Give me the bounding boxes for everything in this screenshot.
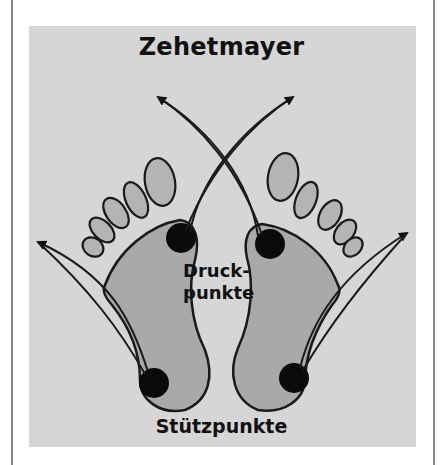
diagram-title: Zehetmayer (0, 33, 443, 61)
arrow-right-ball-to-top-left-2 (158, 97, 258, 236)
feet-diagram (0, 0, 443, 465)
pressure-points-label-line2: punkte (183, 282, 254, 304)
support-points-label: Stützpunkte (0, 415, 443, 437)
right-pressure-point (255, 229, 285, 259)
arrow-right-ball-to-top-left (158, 97, 262, 235)
pressure-points-label: Druck- punkte (183, 260, 254, 304)
pressure-points-label-line1: Druck- (183, 260, 254, 282)
